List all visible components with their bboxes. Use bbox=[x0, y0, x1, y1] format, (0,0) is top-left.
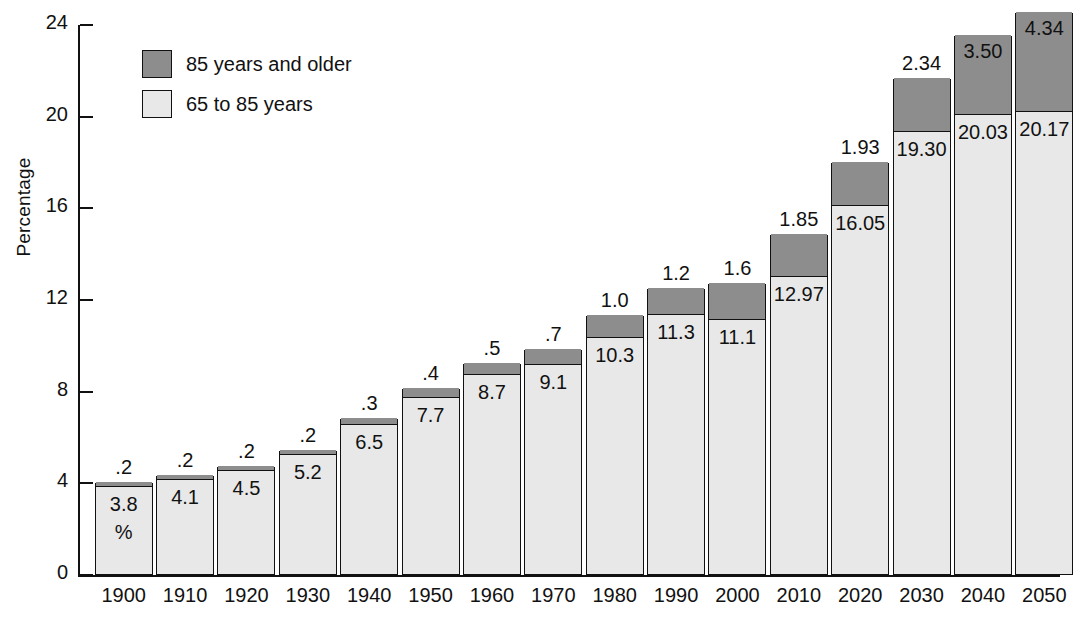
bar-value-label-65-to-85: 4.1 bbox=[171, 486, 199, 509]
x-axis-tick-label: 2050 bbox=[989, 584, 1084, 607]
bar-value-label-65-to-85: 20.17 bbox=[1019, 118, 1069, 141]
bar-segment-65-to-85[interactable] bbox=[587, 338, 643, 574]
legend: 85 years and older 65 to 85 years bbox=[142, 46, 352, 126]
bar-value-label-65-to-85: 3.8 bbox=[110, 493, 138, 516]
bar-value-label-65-to-85: 5.2 bbox=[294, 461, 322, 484]
bar-segment-85-and-older[interactable] bbox=[894, 78, 950, 132]
bar-value-label-65-to-85: 11.1 bbox=[719, 326, 756, 349]
bar-group[interactable]: 1.010.3 bbox=[586, 316, 644, 575]
bar-group[interactable]: .24.1 bbox=[156, 476, 214, 575]
bar-value-label-65-to-85: 9.1 bbox=[539, 371, 567, 394]
bar-segment-85-and-older[interactable] bbox=[525, 349, 581, 365]
legend-item-65-to-85[interactable]: 65 to 85 years bbox=[142, 86, 352, 122]
bar-group[interactable]: .25.2 bbox=[279, 451, 337, 575]
bar-value-label-65-to-85: 7.7 bbox=[417, 404, 445, 427]
bar-group[interactable]: 1.8512.97 bbox=[770, 235, 828, 575]
bar-segment-85-and-older[interactable] bbox=[218, 466, 274, 471]
bar-segment-85-and-older[interactable] bbox=[280, 450, 336, 455]
bar-segment-85-and-older[interactable] bbox=[832, 162, 888, 206]
legend-label: 65 to 85 years bbox=[186, 93, 313, 116]
bar-value-label-65-to-85: 16.05 bbox=[835, 212, 885, 235]
bar-group[interactable]: .79.1 bbox=[524, 350, 582, 575]
bar-group[interactable]: .23.8% bbox=[95, 483, 153, 575]
bar-value-label-85-and-older: 3.50 bbox=[963, 40, 1002, 63]
bar-segment-65-to-85[interactable] bbox=[771, 277, 827, 574]
y-axis-tick-label: 20 bbox=[20, 103, 68, 126]
bar-value-label-65-to-85: 6.5 bbox=[355, 431, 383, 454]
bar-segment-65-to-85[interactable] bbox=[709, 320, 765, 574]
bar-value-label-65-to-85: 12.97 bbox=[774, 283, 824, 306]
bar-group[interactable]: 2.3419.30 bbox=[893, 79, 951, 575]
y-axis-tick-label: 0 bbox=[20, 561, 68, 584]
bar-group[interactable]: .47.7 bbox=[402, 389, 460, 575]
bar-segment-65-to-85[interactable] bbox=[525, 365, 581, 574]
bar-segment-85-and-older[interactable] bbox=[403, 388, 459, 397]
bar-segment-85-and-older[interactable] bbox=[96, 482, 152, 487]
bar-segment-85-and-older[interactable] bbox=[157, 475, 213, 480]
percent-sign-annotation: % bbox=[115, 521, 133, 544]
bar-segment-65-to-85[interactable] bbox=[648, 315, 704, 574]
bar-segment-85-and-older[interactable] bbox=[771, 234, 827, 276]
bar-segment-65-to-85[interactable] bbox=[1016, 112, 1072, 574]
x-axis-spine bbox=[78, 575, 1060, 577]
bar-segment-85-and-older[interactable] bbox=[587, 315, 643, 338]
bar-value-label-65-to-85: 4.5 bbox=[233, 477, 261, 500]
bar-segment-85-and-older[interactable] bbox=[341, 418, 397, 425]
bar-segment-65-to-85[interactable] bbox=[955, 115, 1011, 574]
bar-group[interactable]: .58.7 bbox=[463, 364, 521, 575]
y-axis-tick-label: 8 bbox=[20, 378, 68, 401]
y-axis-tick-label: 16 bbox=[20, 194, 68, 217]
bar-value-label-65-to-85: 19.30 bbox=[897, 138, 947, 161]
bar-stack[interactable] bbox=[954, 36, 1012, 575]
legend-swatch-dark-icon bbox=[142, 50, 172, 78]
bar-segment-65-to-85[interactable] bbox=[464, 375, 520, 574]
bar-group[interactable]: 1.9316.05 bbox=[831, 163, 889, 575]
bar-segment-65-to-85[interactable] bbox=[832, 206, 888, 574]
bar-value-label-65-to-85: 8.7 bbox=[478, 381, 506, 404]
bar-segment-85-and-older[interactable] bbox=[648, 288, 704, 316]
bar-group[interactable]: .24.5 bbox=[217, 467, 275, 575]
stacked-bar-chart: Percentage 04812162024 .23.8%.24.1.24.5.… bbox=[0, 0, 1084, 629]
bar-segment-85-and-older[interactable] bbox=[709, 283, 765, 320]
y-axis-tick-label: 4 bbox=[20, 469, 68, 492]
y-axis-tick-label: 12 bbox=[20, 286, 68, 309]
bar-value-label-65-to-85: 20.03 bbox=[958, 121, 1008, 144]
bar-value-label-65-to-85: 10.3 bbox=[595, 344, 634, 367]
bar-value-label-85-and-older: 4.34 bbox=[1025, 17, 1064, 40]
legend-item-85-and-older[interactable]: 85 years and older bbox=[142, 46, 352, 82]
bar-group[interactable]: 1.211.3 bbox=[647, 289, 705, 575]
bar-group[interactable]: .36.5 bbox=[340, 419, 398, 575]
bar-stack[interactable] bbox=[1015, 13, 1073, 575]
legend-swatch-light-icon bbox=[142, 90, 172, 118]
bar-value-label-65-to-85: 11.3 bbox=[657, 321, 694, 344]
bar-segment-65-to-85[interactable] bbox=[894, 132, 950, 574]
legend-label: 85 years and older bbox=[186, 53, 352, 76]
bar-segment-85-and-older[interactable] bbox=[464, 363, 520, 374]
bar-group[interactable]: 3.5020.03 bbox=[954, 36, 1012, 575]
bar-group[interactable]: 4.3420.17 bbox=[1015, 13, 1073, 575]
y-axis-tick-label: 24 bbox=[20, 11, 68, 34]
bar-group[interactable]: 1.611.1 bbox=[708, 284, 766, 575]
